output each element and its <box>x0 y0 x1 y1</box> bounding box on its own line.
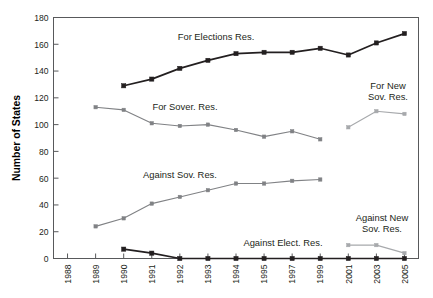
series-marker <box>234 182 237 185</box>
series-marker <box>319 178 322 181</box>
y-tick-label: 120 <box>34 93 49 103</box>
series-marker <box>290 256 294 260</box>
y-tick-label: 140 <box>34 66 49 76</box>
series-marker <box>150 251 154 255</box>
series-marker <box>375 110 378 113</box>
x-tick-label: 1988 <box>63 264 73 283</box>
y-tick-label: 60 <box>39 174 49 184</box>
series-marker <box>402 256 406 260</box>
series-marker <box>178 195 181 198</box>
y-tick-label: 0 <box>44 254 49 264</box>
series-annotation: Sov. Res. <box>368 91 408 102</box>
x-tick-label: 2005 <box>400 264 410 283</box>
series-marker <box>206 58 210 62</box>
series-marker <box>206 256 210 260</box>
series-marker <box>262 135 265 138</box>
series-marker <box>150 202 153 205</box>
series-marker <box>234 256 238 260</box>
series-marker <box>347 243 350 246</box>
series-marker <box>318 46 322 50</box>
series-marker <box>94 106 97 109</box>
x-tick-label: 1994 <box>231 264 241 283</box>
series-annotation: For Elections Res. <box>178 31 255 42</box>
series-against-new-sov-res <box>347 243 407 254</box>
series-marker <box>122 247 126 251</box>
series-marker <box>403 251 406 254</box>
series-marker <box>318 256 322 260</box>
y-tick-label: 180 <box>34 13 49 23</box>
series-marker <box>178 124 181 127</box>
series-marker <box>150 122 153 125</box>
series-marker <box>122 108 125 111</box>
series-marker <box>206 189 209 192</box>
series-annotation: Against Sov. Res. <box>143 169 217 180</box>
y-axis: 020406080100120140160180 <box>34 13 58 264</box>
y-tick-label: 40 <box>39 200 49 210</box>
chart-container: 020406080100120140160180 198819891990199… <box>0 0 433 298</box>
line-chart: 020406080100120140160180 198819891990199… <box>0 0 433 298</box>
series-marker <box>206 123 209 126</box>
series-marker <box>262 182 265 185</box>
series-annotations: For Elections Res.For Sover. Res.Against… <box>143 31 408 248</box>
series-marker <box>346 53 350 57</box>
series-for-elections-res <box>122 31 407 87</box>
x-tick-label: 2003 <box>372 264 382 283</box>
y-tick-label: 80 <box>39 147 49 157</box>
x-tick-label: 1993 <box>203 264 213 283</box>
series-marker <box>319 138 322 141</box>
series-marker <box>290 130 293 133</box>
series-marker <box>290 50 294 54</box>
series-marker <box>234 128 237 131</box>
series-annotation: Against Elect. Res. <box>243 237 322 248</box>
series-marker <box>347 126 350 129</box>
series-marker <box>375 243 378 246</box>
series-marker <box>290 179 293 182</box>
series-annotation: Against New <box>356 212 409 223</box>
x-tick-label: 2001 <box>344 264 354 283</box>
series-marker <box>150 77 154 81</box>
series-marker <box>234 52 238 56</box>
series-against-sov-res <box>94 178 322 228</box>
series-marker <box>122 84 126 88</box>
y-axis-title: Number of States <box>11 95 22 181</box>
series-line <box>96 180 321 227</box>
x-tick-label: 1995 <box>259 264 269 283</box>
series-annotation: For New <box>370 80 406 91</box>
x-tick-label: 1992 <box>175 264 185 283</box>
x-tick-label: 1990 <box>119 264 129 283</box>
series-marker <box>403 112 406 115</box>
x-tick-label: 1999 <box>315 264 325 283</box>
series-for-new-sov-res <box>347 110 407 129</box>
series-marker <box>178 256 182 260</box>
series-marker <box>346 256 350 260</box>
series-marker <box>374 41 378 45</box>
x-tick-label: 1991 <box>147 264 157 283</box>
series-annotation: For Sover. Res. <box>152 101 217 112</box>
series-marker <box>122 217 125 220</box>
series-marker <box>262 50 266 54</box>
series-marker <box>262 256 266 260</box>
y-tick-label: 100 <box>34 120 49 130</box>
series-marker <box>402 31 406 35</box>
series-marker <box>178 66 182 70</box>
series-marker <box>374 256 378 260</box>
y-tick-label: 160 <box>34 40 49 50</box>
series-line <box>124 34 405 86</box>
series-annotation: Sov. Res. <box>362 223 402 234</box>
series-marker <box>94 225 97 228</box>
x-tick-label: 1997 <box>287 264 297 283</box>
y-tick-label: 20 <box>39 227 49 237</box>
series-line <box>348 111 404 127</box>
data-series-group <box>94 31 407 260</box>
x-tick-label: 1989 <box>91 264 101 283</box>
